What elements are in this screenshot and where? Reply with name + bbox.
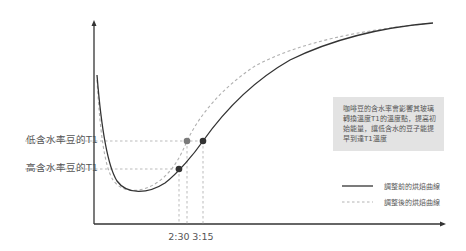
y-axis-arrow-icon xyxy=(92,20,97,26)
marker-high-t1-230 xyxy=(176,166,183,173)
guide-lines xyxy=(25,141,203,224)
annotation-text: 咖啡豆的含水率會影響其玻璃轉換溫度T1的溫度點，提高初始能量，讓低含水的豆子能提… xyxy=(343,105,436,143)
x-label-315: 3:15 xyxy=(192,231,213,242)
annotation-box: 咖啡豆的含水率會影響其玻璃轉換溫度T1的溫度點，提高初始能量，讓低含水的豆子能提… xyxy=(333,97,444,151)
legend-label-before: 調整前的烘焙曲線 xyxy=(384,181,440,191)
y-label-high-moisture-t1: 高含水率豆的T1 xyxy=(26,160,98,174)
marker-low-t1-315 xyxy=(200,138,207,145)
x-axis-arrow-icon xyxy=(440,222,446,227)
x-label-230: 2:30 xyxy=(168,231,189,242)
legend-label-after: 調整後的烘焙曲線 xyxy=(384,197,440,207)
y-label-low-moisture-t1: 低含水率豆的T1 xyxy=(26,132,98,146)
marker-low-t1-adjusted xyxy=(184,138,191,145)
